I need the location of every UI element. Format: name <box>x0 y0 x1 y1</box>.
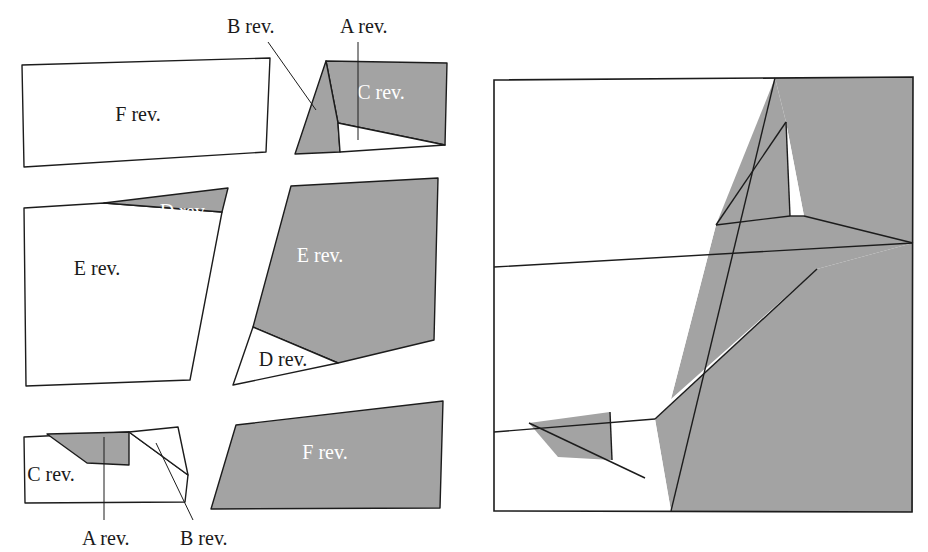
exploded-view: F rev.C rev.E rev.D rev.E rev.D rev.F re… <box>22 15 447 549</box>
assembled-view <box>494 77 913 512</box>
piece-f-bottom-label: F rev. <box>302 441 347 463</box>
piece-e-mid-right <box>253 178 438 363</box>
piece-e-mid-left <box>24 203 222 386</box>
callout-b-bottom-label: B rev. <box>180 527 228 549</box>
piece-c-bottom-label: C rev. <box>27 463 75 485</box>
callout-b-top-leader-line <box>268 42 316 110</box>
piece-e-mid-left-label: E rev. <box>74 257 120 279</box>
callout-a-top-label: A rev. <box>340 15 388 37</box>
piece-d-mid-right-label: D rev. <box>259 348 308 370</box>
figure-canvas: F rev.C rev.E rev.D rev.E rev.D rev.F re… <box>0 0 928 552</box>
figure-svg: F rev.C rev.E rev.D rev.E rev.D rev.F re… <box>0 0 928 552</box>
callout-b-top-label: B rev. <box>227 15 275 37</box>
piece-f-top-label: F rev. <box>115 103 160 125</box>
piece-c-top-label: C rev. <box>357 81 405 103</box>
piece-d-mid-left-label: D rev. <box>160 200 209 222</box>
piece-e-mid-right-label: E rev. <box>297 244 343 266</box>
callout-a-bottom-label: A rev. <box>82 527 130 549</box>
